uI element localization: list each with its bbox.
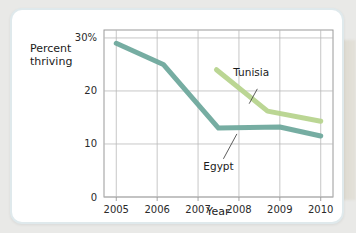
series-label-egypt: Egypt — [203, 160, 233, 172]
y-tick-label: 20 — [84, 85, 97, 96]
y-tick-label: 10 — [84, 138, 97, 149]
page-background: Percent thriving 30%20100 20052006200720… — [0, 0, 356, 233]
y-tick-label: 0 — [91, 192, 97, 203]
x-tick-label: 2008 — [226, 204, 251, 215]
x-axis-title: Year — [205, 205, 230, 218]
x-tick-label: 2010 — [308, 204, 333, 215]
y-axis-tick-labels: 30%20100 — [75, 32, 97, 202]
x-tick-label: 2006 — [144, 204, 169, 215]
x-tick-label: 2009 — [267, 204, 292, 215]
chart-canvas: 30%20100 200520062007200820092010 Tunisi… — [12, 10, 342, 222]
y-tick-label: 30% — [75, 32, 97, 43]
line-chart: Percent thriving 30%20100 20052006200720… — [12, 10, 342, 222]
x-tick-label: 2005 — [104, 204, 129, 215]
series-label-tunisia: Tunisia — [232, 66, 269, 78]
figure-card: Percent thriving 30%20100 20052006200720… — [10, 8, 344, 224]
